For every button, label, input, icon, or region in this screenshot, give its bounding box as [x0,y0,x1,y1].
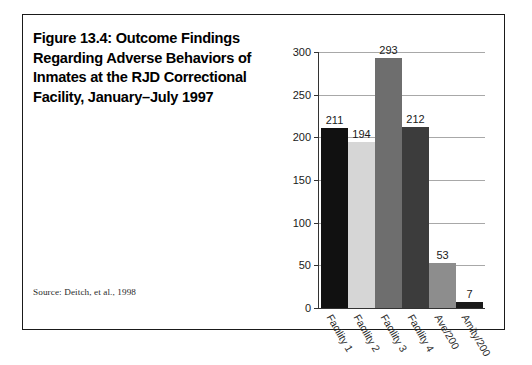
bar: 194 [348,142,375,308]
bar-value-label: 211 [326,114,344,126]
y-tick-label: 0 [305,302,311,314]
bar-value-label: 53 [436,249,448,261]
bar: 211 [321,128,348,308]
y-tick-label: 150 [293,174,311,186]
y-tick-label: 200 [293,131,311,143]
source-note: Source: Deitch, et al., 1998 [33,287,136,297]
x-tick-label: Ave/200 [433,312,463,351]
y-tick-label: 250 [293,89,311,101]
x-tick-label: Amity/200 [460,312,494,358]
caption-block: Figure 13.4: Outcome Findings Regarding … [33,29,261,107]
bar: 53 [429,263,456,308]
bar-value-label: 194 [352,128,370,140]
figure-title: Figure 13.4: Outcome Findings Regarding … [33,29,261,107]
bar: 293 [375,58,402,308]
bar: 212 [402,127,429,308]
bar-value-label: 7 [466,288,472,300]
x-axis-labels: Facility 1Facility 2Facility 3Facility 4… [319,308,485,360]
figure-frame: Figure 13.4: Outcome Findings Regarding … [22,14,505,330]
y-tick-label: 300 [293,46,311,58]
y-tick-label: 100 [293,217,311,229]
bars-group: 211194293212537 [319,52,485,308]
y-tick-label: 50 [299,259,311,271]
plot-area: 050100150200250300 211194293212537 Facil… [319,52,485,308]
bar-chart: 050100150200250300 211194293212537 Facil… [275,31,503,321]
bar-value-label: 212 [406,113,424,125]
bar-value-label: 293 [379,44,397,56]
